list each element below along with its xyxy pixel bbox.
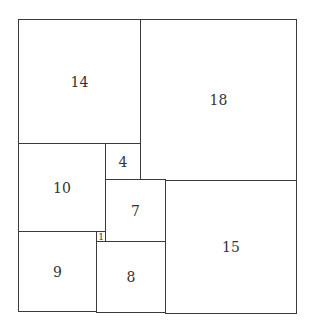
square-8: 8 [96,241,166,313]
square-size-label: 4 [106,155,140,169]
squared-rectangle-diagram: 1418104715198 [0,0,313,327]
square-4: 4 [105,143,141,180]
square-14: 14 [18,19,141,144]
square-size-label: 15 [166,240,296,254]
square-size-label: 10 [19,181,105,195]
square-size-label: 8 [97,270,165,284]
square-10: 10 [18,143,106,232]
square-size-label: 1 [97,232,105,241]
square-size-label: 14 [19,75,140,89]
square-18: 18 [140,19,297,181]
square-size-label: 9 [19,265,96,279]
square-9: 9 [18,231,97,312]
square-15: 15 [165,180,297,314]
square-size-label: 7 [106,204,165,218]
square-7: 7 [105,179,166,242]
square-size-label: 18 [141,93,296,107]
